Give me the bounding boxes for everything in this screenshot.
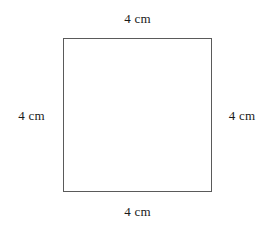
square-shape xyxy=(63,38,212,192)
dimension-label-right: 4 cm xyxy=(216,108,268,123)
dimension-label-left: 4 cm xyxy=(4,108,59,123)
dimension-label-top: 4 cm xyxy=(63,11,212,26)
figure-canvas: 4 cm 4 cm 4 cm 4 cm xyxy=(0,0,272,228)
dimension-label-bottom: 4 cm xyxy=(63,204,212,219)
